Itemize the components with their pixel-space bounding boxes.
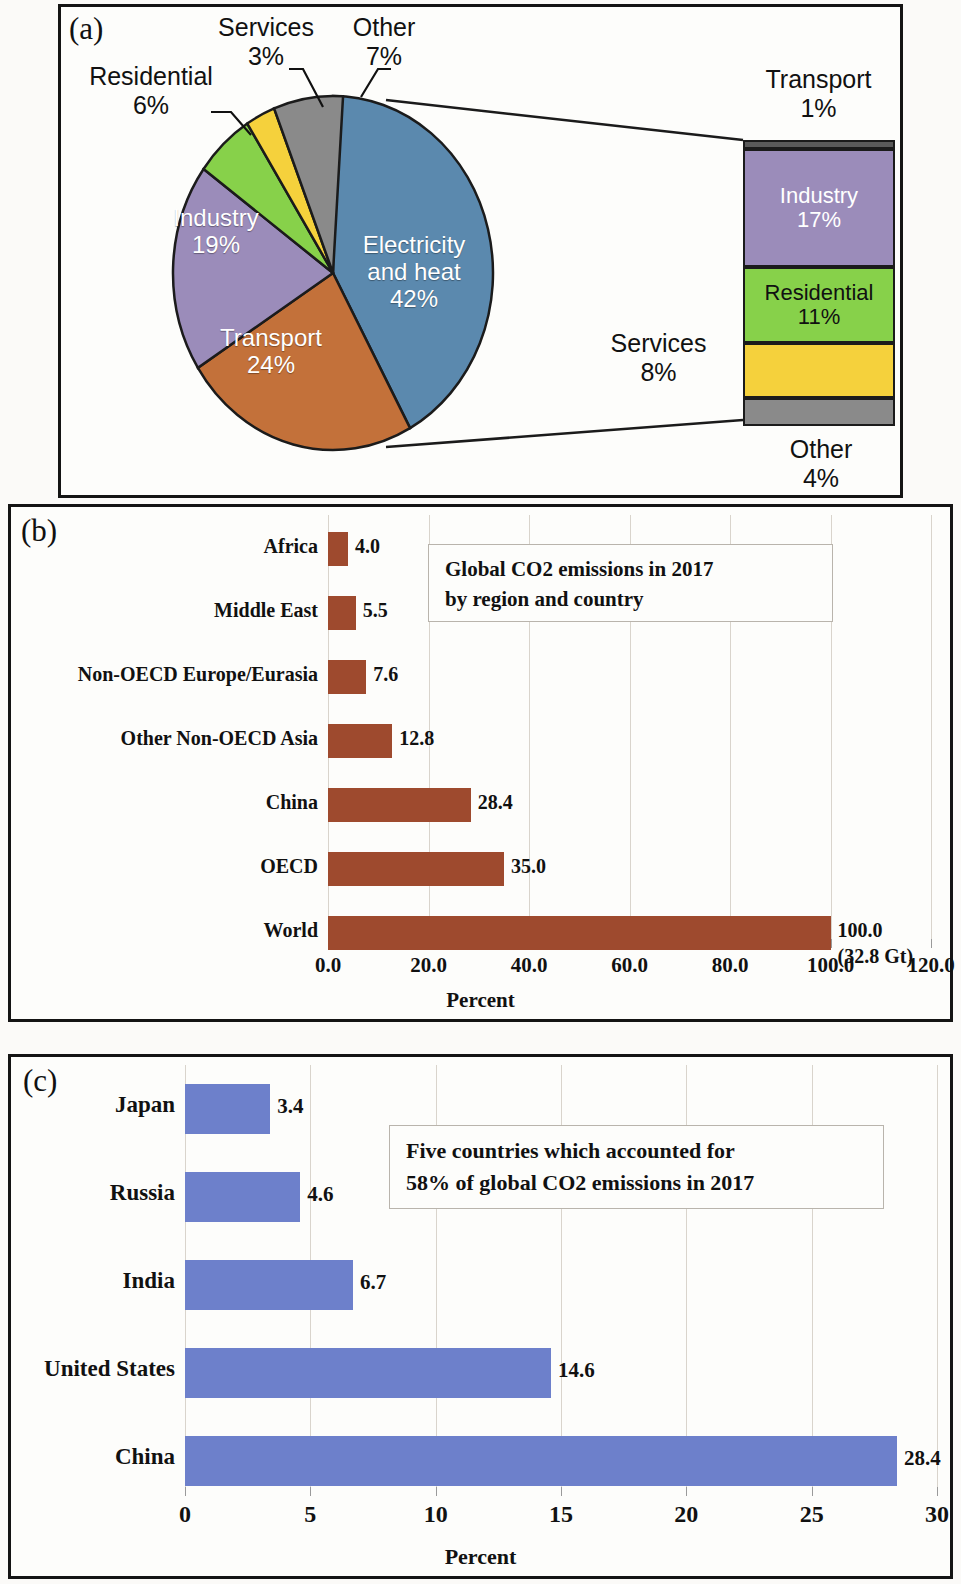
bar-world	[328, 916, 831, 950]
callout-line-top	[386, 100, 743, 140]
pie-label-services-pct: 3%	[248, 42, 284, 70]
bar-value-sublabel: (32.8 Gt)	[838, 945, 914, 968]
bar-value-label: 6.7	[360, 1270, 386, 1295]
stack-label-residential-pct: 11%	[798, 305, 840, 329]
stack-label-transport: Transport 1%	[721, 65, 916, 123]
pie-label-residential: Residential 6%	[56, 62, 246, 120]
pie-label-other-pct: 7%	[366, 42, 402, 70]
stack-segment-services	[743, 343, 895, 398]
bar-value-label: 7.6	[373, 663, 398, 686]
category-label: World	[15, 919, 318, 942]
bar-other-non-oecd-asia	[328, 724, 392, 758]
axis-tick	[931, 939, 932, 948]
axis-tick	[561, 1487, 562, 1496]
category-label: India	[15, 1268, 175, 1294]
pie-label-services-name: Services	[218, 13, 314, 41]
pie-label-industry-name: Industry	[173, 204, 258, 231]
axis-tick	[310, 1487, 311, 1496]
axis-tick-label: 5	[250, 1501, 370, 1528]
category-label: Middle East	[15, 599, 318, 622]
pie-label-residential-pct: 6%	[133, 91, 169, 119]
stacked-breakout-bar: Industry 17% Residential 11%	[743, 140, 895, 420]
axis-tick	[937, 1487, 938, 1496]
bar-value-label: 35.0	[511, 855, 546, 878]
stack-label-services-name: Services	[611, 329, 707, 357]
category-label: Russia	[15, 1180, 175, 1206]
stack-label-industry-name: Industry	[780, 184, 858, 208]
axis-tick-label: 30	[877, 1501, 961, 1528]
stack-label-transport-pct: 1%	[800, 94, 836, 122]
pie-chart-area: Electricity and heat 42% Transport 24% I…	[61, 7, 900, 495]
bar-value-label: 28.4	[478, 791, 513, 814]
bar-value-label: 100.0	[838, 919, 883, 942]
bar-africa	[328, 532, 348, 566]
axis-tick-label: 0	[125, 1501, 245, 1528]
gridline	[931, 515, 932, 939]
leader-line-other	[361, 69, 391, 97]
panel-b-bar-chart: (b) 0.020.040.060.080.0100.0120.0Africa4…	[8, 504, 953, 1022]
axis-tick-label: 25	[752, 1501, 872, 1528]
pie-label-transport-name: Transport	[220, 324, 322, 351]
axis-tick	[436, 1487, 437, 1496]
stack-label-other-pct: 4%	[803, 464, 839, 492]
axis-tick	[185, 1487, 186, 1496]
panel-a-pie-chart: (a) Electricity and heat 42% Transport 2…	[58, 4, 903, 498]
chart-b-note-line2: by region and country	[445, 584, 819, 614]
category-label: Africa	[15, 535, 318, 558]
pie-label-electricity-pct: 42%	[390, 285, 438, 312]
stack-label-services: Services 8%	[581, 329, 736, 387]
category-label: China	[15, 1444, 175, 1470]
stack-segment-transport	[743, 140, 895, 149]
chart-c-axis-title: Percent	[11, 1544, 950, 1570]
category-label: Japan	[15, 1092, 175, 1118]
pie-label-electricity-line1: Electricity	[363, 231, 466, 258]
pie-label-transport-pct: 24%	[247, 351, 295, 378]
chart-b-axis-title: Percent	[11, 988, 950, 1013]
panel-c-bar-chart: (c) 051015202530Japan3.4Russia4.6India6.…	[8, 1054, 953, 1579]
stack-label-transport-name: Transport	[765, 65, 871, 93]
stack-label-other: Other 4%	[751, 435, 891, 493]
category-label: Non-OECD Europe/Eurasia	[15, 663, 318, 686]
bar-value-label: 4.6	[307, 1182, 333, 1207]
bar-value-label: 12.8	[399, 727, 434, 750]
bar-china	[185, 1436, 897, 1486]
pie-label-other-name: Other	[353, 13, 416, 41]
stack-segment-industry: Industry 17%	[743, 149, 895, 267]
axis-tick-label: 10	[376, 1501, 496, 1528]
bar-value-label: 3.4	[277, 1094, 303, 1119]
gridline	[937, 1065, 938, 1487]
callout-line-bottom	[386, 420, 743, 447]
chart-c-note-line1: Five countries which accounted for	[406, 1135, 870, 1167]
stack-segment-residential: Residential 11%	[743, 267, 895, 343]
bar-oecd	[328, 852, 504, 886]
axis-tick	[831, 939, 832, 948]
axis-tick-label: 20	[626, 1501, 746, 1528]
bar-japan	[185, 1084, 270, 1134]
chart-b-note-box: Global CO2 emissions in 2017 by region a…	[428, 544, 833, 622]
pie-label-industry: Industry 19%	[141, 205, 291, 259]
bar-china	[328, 788, 471, 822]
pie-label-transport: Transport 24%	[186, 325, 356, 379]
category-label: Other Non-OECD Asia	[15, 727, 318, 750]
bar-value-label: 4.0	[355, 535, 380, 558]
category-label: United States	[15, 1356, 175, 1382]
chart-c-note-line2: 58% of global CO2 emissions in 2017	[406, 1167, 870, 1199]
bar-india	[185, 1260, 353, 1310]
pie-label-other: Other 7%	[319, 13, 449, 71]
bar-middle-east	[328, 596, 356, 630]
category-label: China	[15, 791, 318, 814]
chart-b-note-line1: Global CO2 emissions in 2017	[445, 554, 819, 584]
category-label: OECD	[15, 855, 318, 878]
pie-label-electricity: Electricity and heat 42%	[329, 232, 499, 313]
bar-non-oecd-europe-eurasia	[328, 660, 366, 694]
bar-value-label: 28.4	[904, 1446, 941, 1471]
stack-label-other-name: Other	[790, 435, 853, 463]
bar-russia	[185, 1172, 300, 1222]
pie-label-electricity-line2: and heat	[367, 258, 460, 285]
stack-label-residential-name: Residential	[765, 281, 874, 305]
pie-label-industry-pct: 19%	[192, 231, 240, 258]
axis-tick	[812, 1487, 813, 1496]
bar-value-label: 5.5	[363, 599, 388, 622]
stack-segment-other	[743, 398, 895, 426]
axis-tick	[686, 1487, 687, 1496]
